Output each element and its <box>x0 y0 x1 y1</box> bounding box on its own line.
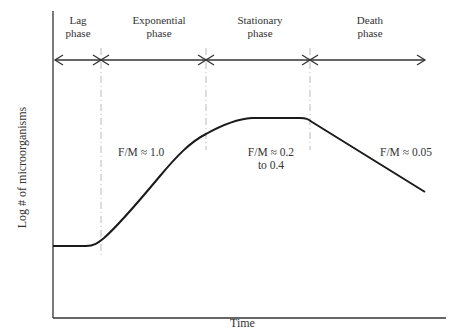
growth-curve <box>53 118 425 246</box>
y-axis-label: Log # of microorganisms <box>15 88 30 248</box>
stat-label-line2: phase <box>225 27 295 40</box>
fm-stationary-annotation: F/M ≈ 0.2 to 0.4 <box>236 146 306 172</box>
exponential-phase-label: Exponential phase <box>124 14 194 40</box>
fm-stationary-line2: to 0.4 <box>236 159 306 172</box>
lag-label-line2: phase <box>62 27 94 40</box>
lag-phase-label: Lag phase <box>62 14 94 40</box>
fm-exponential-annotation: F/M ≈ 1.0 <box>118 146 164 159</box>
stationary-phase-label: Stationary phase <box>225 14 295 40</box>
fm-death-annotation: F/M ≈ 0.05 <box>380 146 432 159</box>
phase-arrows <box>55 55 425 65</box>
fm-stationary-line1: F/M ≈ 0.2 <box>236 146 306 159</box>
stat-label-line1: Stationary <box>225 14 295 27</box>
exp-label-line2: phase <box>124 27 194 40</box>
death-label-line2: phase <box>350 27 390 40</box>
growth-curve-diagram: Lag phase Exponential phase Stationary p… <box>0 0 465 331</box>
death-phase-label: Death phase <box>350 14 390 40</box>
death-label-line1: Death <box>350 14 390 27</box>
x-axis-label: Time <box>230 316 255 331</box>
lag-label-line1: Lag <box>62 14 94 27</box>
diagram-canvas <box>0 0 465 331</box>
exp-label-line1: Exponential <box>124 14 194 27</box>
